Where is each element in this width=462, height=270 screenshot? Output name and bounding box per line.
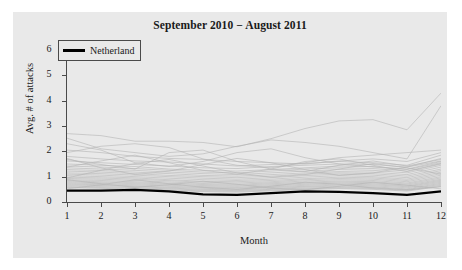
x-tick [339,203,340,207]
x-tick [407,203,408,207]
series-lines [67,50,441,202]
y-axis-line [66,50,67,203]
y-tick-label: 3 [38,119,60,130]
x-tick [203,203,204,207]
x-tick-label: 5 [190,210,216,221]
y-tick [62,177,66,178]
series-line [67,93,441,147]
y-tick [62,151,66,152]
x-tick [67,203,68,207]
y-tick [62,101,66,102]
y-axis-title: Avg. # of attacks [24,41,35,157]
x-axis-line [66,202,442,203]
x-axis-title: Month [67,235,441,246]
y-tick-label: 0 [38,195,60,206]
x-tick [373,203,374,207]
plot-area [67,50,441,202]
x-tick [271,203,272,207]
x-tick [441,203,442,207]
x-tick-label: 2 [88,210,114,221]
x-tick-label: 11 [394,210,420,221]
legend-line-icon [63,49,85,51]
background-series-group [67,93,441,192]
x-tick-label: 1 [54,210,80,221]
legend-item-label: Netherland [90,45,134,56]
y-tick-label: 4 [38,94,60,105]
x-tick [169,203,170,207]
x-tick [135,203,136,207]
x-tick [237,203,238,207]
x-tick-label: 4 [156,210,182,221]
y-tick [62,202,66,203]
x-tick-label: 3 [122,210,148,221]
y-tick-label: 2 [38,144,60,155]
chart-title: September 2010 − August 2011 [13,19,447,31]
x-tick-label: 12 [428,210,454,221]
y-tick-label: 6 [38,43,60,54]
y-tick [62,126,66,127]
x-tick [305,203,306,207]
x-tick [101,203,102,207]
y-tick [62,75,66,76]
x-tick-label: 10 [360,210,386,221]
y-tick-label: 1 [38,170,60,181]
chart-figure: September 2010 − August 2011 0123456 123… [0,0,462,270]
chart-legend: Netherland [58,40,141,61]
x-tick-label: 9 [326,210,352,221]
x-tick-label: 8 [292,210,318,221]
x-tick-label: 6 [224,210,250,221]
y-tick-label: 5 [38,68,60,79]
x-tick-label: 7 [258,210,284,221]
